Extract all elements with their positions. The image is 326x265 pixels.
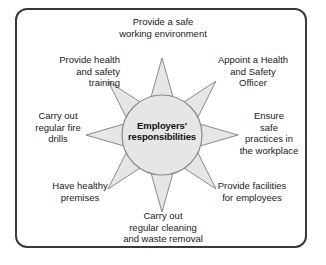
ray-label-north: Provide a safe working environment <box>98 16 228 39</box>
ray-label-northeast: Appoint a Health and Safety Officer <box>203 54 303 89</box>
ray-label-northwest: Provide health and safety training <box>22 54 120 89</box>
ray-label-southwest: Have healthy premises <box>30 180 130 203</box>
hub-label: Employers' responsibilities <box>117 120 207 142</box>
ray-label-southeast: Provide facilities for employees <box>200 180 304 203</box>
hub-label-line-1: Employers' <box>117 120 207 131</box>
ray-label-east: Ensure safe practices in the workplace <box>232 110 306 156</box>
ray-label-west: Carry out regular fire drills <box>18 110 98 145</box>
hub-label-line-2: responsibilities <box>117 131 207 142</box>
ray-label-south: Carry out regular cleaning and waste rem… <box>96 210 230 245</box>
employers-responsibilities-diagram: Employers' responsibilities Provide a sa… <box>0 0 326 265</box>
